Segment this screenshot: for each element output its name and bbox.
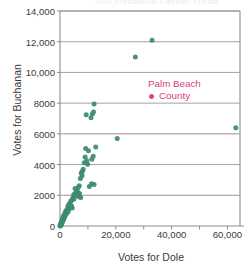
data-point	[150, 38, 155, 43]
annotation-line-2-text: County	[159, 90, 190, 101]
y-tick-label: 0	[3, 221, 55, 232]
scatter-plot-figure: 2000 Presidential Election, Florida 0200…	[0, 0, 249, 270]
x-tick-label: 60,000	[213, 229, 242, 240]
data-point	[58, 223, 63, 228]
data-point	[91, 110, 96, 115]
data-point	[115, 136, 120, 141]
annotation-line-2: County	[148, 90, 201, 102]
data-point	[92, 101, 97, 106]
y-axis-label: Votes for Buchanan	[11, 45, 23, 175]
data-point	[85, 162, 90, 167]
y-tick-label: 14,000	[3, 6, 55, 17]
annotation-line-1: Palm Beach	[148, 78, 201, 89]
data-point	[89, 157, 94, 162]
x-tick-label: 20,000	[101, 229, 130, 240]
data-point	[84, 112, 89, 117]
palm-beach-marker-icon	[149, 94, 154, 99]
data-point	[78, 195, 83, 200]
x-axis-label: Votes for Dole	[58, 251, 244, 263]
data-point	[93, 144, 98, 149]
y-axis-tick-labels: 0200040006000800010,00012,00014,000	[0, 0, 55, 270]
y-tick-label: 2000	[3, 190, 55, 201]
x-tick-label: 0	[57, 229, 62, 240]
data-point	[133, 55, 138, 60]
data-point	[92, 182, 97, 187]
x-tick-label: 40,000	[157, 229, 186, 240]
data-point	[233, 125, 238, 130]
palm-beach-county-annotation: Palm Beach County	[148, 78, 201, 101]
data-point	[86, 148, 91, 153]
data-point	[87, 184, 92, 189]
data-point	[78, 176, 83, 181]
